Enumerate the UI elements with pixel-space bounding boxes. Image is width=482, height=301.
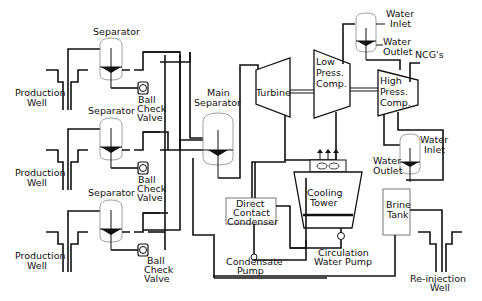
high-press-l2: Press.	[380, 86, 408, 97]
lower-water-outlet-l2: Outlet	[373, 165, 403, 176]
separator-1	[100, 38, 160, 88]
ball-check-valve-3-l3: Valve	[144, 273, 170, 284]
circulation-pump-l2: Water Pump	[314, 256, 372, 267]
production-well-1-label-l2: Well	[27, 97, 47, 108]
ncg-label: NCG's	[415, 49, 444, 60]
steam-headers	[143, 52, 205, 250]
production-well-2-label-l2: Well	[27, 177, 47, 188]
cooling-tower-l2: Tower	[309, 197, 338, 208]
production-well-3-label-l2: Well	[27, 260, 47, 271]
high-press-l3: Comp.	[380, 97, 411, 108]
lower-intercooler	[400, 134, 420, 182]
separator-3-label: Separator	[88, 187, 135, 198]
low-press-l1: Low	[316, 56, 335, 67]
low-press-l3: Comp.	[316, 78, 347, 89]
separator-1-label: Separator	[93, 26, 140, 37]
ball-check-valve-2	[138, 162, 148, 174]
low-press-l2: Press.	[316, 67, 344, 78]
upper-water-outlet-l2: Outlet	[383, 46, 413, 57]
lower-water-inlet-l2: Inlet	[424, 144, 445, 155]
process-flow-diagram: Separator Separator Separator Production…	[0, 0, 482, 301]
turbine-label: Turbine	[255, 87, 291, 98]
production-well-3	[46, 211, 100, 272]
upper-water-inlet-l2: Inlet	[390, 18, 411, 29]
separator-3	[100, 200, 160, 250]
ball-check-valve-1	[138, 82, 148, 94]
brine-tank-l2: Tank	[386, 209, 409, 220]
ball-check-valve-2-l3: Valve	[137, 192, 163, 203]
separator-2	[100, 118, 160, 168]
reinjection-well-l2: Well	[430, 282, 450, 293]
separator-2-label: Separator	[88, 105, 135, 116]
condensate-pump-l2: Pump	[237, 265, 264, 276]
ball-check-valve-1-l3: Valve	[137, 112, 163, 123]
main-separator-l2: Separator	[194, 97, 241, 108]
production-well-2	[46, 129, 100, 190]
production-well-1	[46, 49, 100, 110]
reinjection-well	[418, 232, 462, 272]
high-press-l1: High	[380, 75, 402, 86]
condenser-l3: Condenser	[227, 216, 278, 227]
